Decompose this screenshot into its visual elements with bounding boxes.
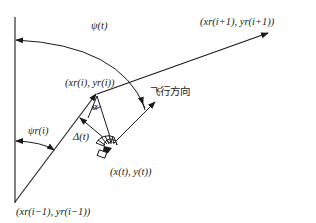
vehicle-icon [96, 135, 117, 158]
label-alpha: α [92, 102, 98, 113]
label-psi-r-i: ψr(i) [28, 126, 49, 137]
label-point-next: (xr(i+1), yr(i+1)) [200, 17, 274, 28]
psi-r-arc [16, 141, 54, 150]
label-flight-direction: 飞行方向 [150, 86, 190, 97]
label-point-prev: (xr(i−1), yr(i−1)) [16, 207, 90, 218]
psi-t-arc [16, 40, 145, 108]
label-psi-t: ψ(t) [91, 21, 107, 32]
flight-direction-arrow [114, 102, 155, 143]
label-vehicle-position: (x(t), y(t)) [110, 167, 151, 178]
label-delta: Δ(t) [73, 132, 89, 143]
path-segment-prev [15, 94, 96, 202]
label-point-current: (xr(i), yr(i)) [65, 78, 115, 89]
geometry-diagram [0, 0, 316, 223]
